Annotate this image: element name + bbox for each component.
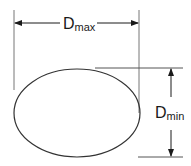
ellipse-dimension-diagram: Dmax Dmin — [0, 0, 191, 166]
dmin-label: Dmin — [155, 104, 184, 122]
ellipse-shape — [14, 69, 140, 157]
dmax-label: Dmax — [63, 15, 96, 33]
